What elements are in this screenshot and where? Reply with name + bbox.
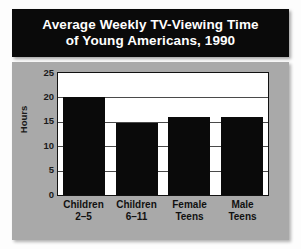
chart-title-line-1: Average Weekly TV-Viewing Time: [42, 17, 258, 33]
x-tick-label-line-2: Teens: [216, 211, 269, 223]
x-tick-label-line-2: 6–11: [110, 211, 163, 223]
x-tick-label: Children6–11: [110, 199, 163, 233]
chart-panel: Hours 2520151050 Children2–5Children6–11…: [12, 62, 289, 240]
x-tick-label: MaleTeens: [216, 199, 269, 233]
y-tick-label: 15: [32, 116, 54, 125]
y-tick-label: 0: [32, 190, 54, 199]
x-tick-label-line-2: 2–5: [57, 211, 110, 223]
x-axis-ticks: Children2–5Children6–11FemaleTeensMaleTe…: [57, 199, 269, 233]
y-tick-label: 5: [32, 165, 54, 174]
chart-figure: Average Weekly TV-Viewing Time of Young …: [0, 0, 301, 249]
x-tick-label-line-2: Teens: [163, 211, 216, 223]
x-tick-label-line-1: Female: [172, 199, 206, 210]
bar: [168, 117, 210, 195]
y-axis-ticks: 2520151050: [24, 72, 54, 196]
y-tick-label: 20: [32, 92, 54, 101]
bar: [221, 117, 263, 195]
chart-title-line-2: of Young Americans, 1990: [66, 33, 235, 49]
x-tick-label: Children2–5: [57, 199, 110, 233]
bar: [116, 123, 158, 195]
y-tick-label: 10: [32, 141, 54, 150]
x-tick-label: FemaleTeens: [163, 199, 216, 233]
plot-area: [57, 72, 269, 196]
x-tick-label-line-1: Male: [231, 199, 253, 210]
x-tick-label-line-1: Children: [63, 199, 104, 210]
y-tick-label: 25: [32, 68, 54, 77]
x-tick-label-line-1: Children: [116, 199, 157, 210]
bar: [63, 97, 105, 195]
chart-title-banner: Average Weekly TV-Viewing Time of Young …: [12, 9, 289, 57]
